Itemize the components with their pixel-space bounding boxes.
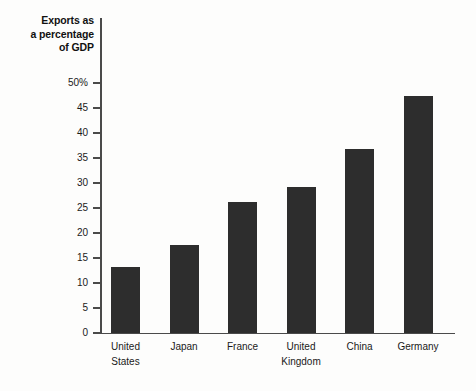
- y-axis-tick-label-text: 25: [48, 203, 88, 213]
- y-axis-tick-label: 45: [48, 103, 88, 113]
- y-axis-tick-label-text: 30: [48, 178, 88, 188]
- y-axis-tick: [93, 132, 100, 133]
- y-axis-tick-label: 25: [48, 203, 88, 213]
- y-axis-tick-label-text: 50%: [48, 78, 88, 88]
- y-axis-tick-label-text: 40: [48, 128, 88, 138]
- y-axis-tick: [93, 82, 100, 83]
- bar-chart-figure: Exports as a percentage of GDP 051015202…: [0, 0, 476, 391]
- chart-title-line-2: a percentage: [14, 28, 94, 42]
- y-axis-tick-label: 35: [48, 153, 88, 163]
- y-axis-tick-label: 20: [48, 228, 88, 238]
- bar: [345, 149, 374, 333]
- y-axis-tick-label: 5: [48, 303, 88, 313]
- y-axis-tick-label: 50%: [48, 78, 88, 88]
- y-axis-tick-label-text: 15: [48, 253, 88, 263]
- bar: [170, 245, 199, 333]
- y-axis-tick-label: 10: [48, 278, 88, 288]
- x-axis-label: Germany: [373, 340, 463, 355]
- bar: [111, 267, 140, 333]
- x-axis-label-line: Kingdom: [256, 355, 346, 370]
- y-axis-tick-label: 0: [48, 328, 88, 338]
- bar: [404, 96, 433, 334]
- y-axis-tick-label-text: 35: [48, 153, 88, 163]
- y-axis-tick: [93, 107, 100, 108]
- x-axis-line: [100, 333, 455, 335]
- y-axis-tick: [93, 207, 100, 208]
- y-axis-tick-label: 15: [48, 253, 88, 263]
- y-axis-tick-label-text: 20: [48, 228, 88, 238]
- chart-title-line-1: Exports as: [14, 14, 94, 28]
- y-axis-tick: [93, 307, 100, 308]
- y-axis-tick: [93, 182, 100, 183]
- x-axis-label-line: Germany: [373, 340, 463, 355]
- y-axis-tick-label: 40: [48, 128, 88, 138]
- y-axis-tick-label-text: 5: [48, 303, 88, 313]
- bar: [228, 202, 257, 334]
- y-axis-tick-label-text: 0: [48, 328, 88, 338]
- y-axis-tick-label: 30: [48, 178, 88, 188]
- y-axis-tick: [93, 282, 100, 283]
- chart-title: Exports as a percentage of GDP: [14, 14, 94, 55]
- y-axis-tick-label-text: 45: [48, 103, 88, 113]
- y-axis-line: [100, 18, 102, 334]
- x-axis-label-line: States: [81, 355, 171, 370]
- y-axis-tick-label-text: 10: [48, 278, 88, 288]
- bar: [287, 187, 316, 333]
- y-axis-tick: [93, 332, 100, 333]
- y-axis-tick: [93, 232, 100, 233]
- y-axis-tick: [93, 157, 100, 158]
- chart-title-line-3: of GDP: [14, 41, 94, 55]
- y-axis-tick: [93, 257, 100, 258]
